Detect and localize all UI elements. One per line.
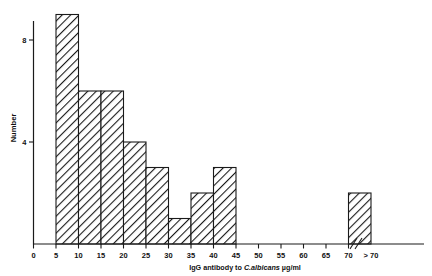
y-tick-label: 8 <box>22 36 26 45</box>
histogram-bar <box>124 142 147 244</box>
x-tick-label: 70 <box>344 251 352 260</box>
x-tick-label: 50 <box>254 251 262 260</box>
x-tick-label: 25 <box>142 251 150 260</box>
histogram-bar <box>79 91 102 244</box>
x-ticks-layer: 0510152025303540455055606570> 70 <box>31 244 378 260</box>
histogram-bar <box>146 168 169 245</box>
histogram-bar <box>56 15 79 245</box>
x-axis-title-before: IgG antibody to <box>189 263 244 272</box>
x-tick-label: 20 <box>119 251 127 260</box>
x-axis-title: IgG antibody to C.albicans µg/ml <box>189 263 301 272</box>
x-tick-label: 30 <box>164 251 172 260</box>
x-axis-title-species: C.albicans <box>244 263 280 272</box>
x-tick-label-gt70: > 70 <box>364 251 379 260</box>
histogram-bar <box>101 91 124 244</box>
x-tick-label: 55 <box>277 251 285 260</box>
x-tick-label: 10 <box>74 251 82 260</box>
x-axis-title-units: µg/ml <box>280 263 301 272</box>
histogram-plot: 0510152025303540455055606570> 70 48 Numb… <box>0 0 432 276</box>
y-ticks-layer: 48 <box>22 36 33 147</box>
histogram-bar <box>169 219 192 245</box>
histogram-figure: 0510152025303540455055606570> 70 48 Numb… <box>0 0 432 276</box>
x-tick-label: 35 <box>187 251 195 260</box>
bars-layer <box>56 15 371 245</box>
x-tick-label: 5 <box>54 251 58 260</box>
x-tick-label: 40 <box>209 251 217 260</box>
histogram-bar <box>191 193 214 244</box>
y-tick-label: 4 <box>22 138 27 147</box>
x-tick-label: 0 <box>31 251 35 260</box>
histogram-bar <box>214 168 237 245</box>
y-axis-title: Number <box>9 114 18 143</box>
x-tick-label: 15 <box>97 251 105 260</box>
x-tick-label: 65 <box>322 251 330 260</box>
x-tick-label: 60 <box>299 251 307 260</box>
histogram-bar <box>349 193 372 244</box>
x-tick-label: 45 <box>232 251 240 260</box>
